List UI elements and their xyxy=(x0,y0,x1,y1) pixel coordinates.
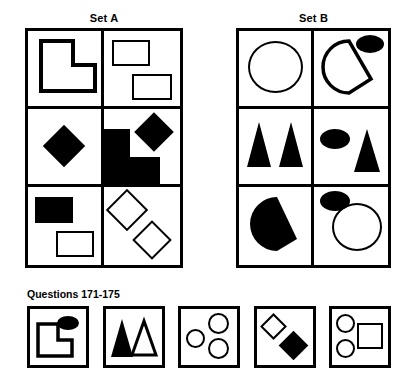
cell-a3 xyxy=(28,109,104,187)
ellipse-filled-icon xyxy=(356,35,384,53)
rectangle-filled-icon xyxy=(35,197,73,223)
circle-outline-icon xyxy=(208,338,229,359)
answer-option-4[interactable] xyxy=(254,306,316,368)
triangle-filled-icon xyxy=(354,129,380,172)
answer-option-2[interactable] xyxy=(103,306,165,368)
pacman-filled-icon xyxy=(247,195,301,253)
triangle-filled-icon xyxy=(279,122,303,167)
set-b-panel xyxy=(236,28,391,268)
rectangle-outline-icon xyxy=(132,74,172,100)
cell-b2 xyxy=(314,31,389,109)
answer-option-1[interactable] xyxy=(27,306,89,368)
square-outline-icon xyxy=(357,323,383,349)
circle-outline-icon xyxy=(208,313,229,334)
triangle-filled-icon xyxy=(247,122,271,167)
diamond-filled-icon xyxy=(279,331,309,361)
questions-label: Questions 171-175 xyxy=(27,288,120,300)
answer-option-3[interactable] xyxy=(178,306,240,368)
set-a-title: Set A xyxy=(25,12,183,24)
cell-a6 xyxy=(104,187,180,265)
set-a-panel xyxy=(25,28,183,268)
cell-a5 xyxy=(28,187,104,265)
cell-b5 xyxy=(239,187,314,265)
cell-a1 xyxy=(28,31,104,109)
cell-b4 xyxy=(314,109,389,187)
rectangle-outline-icon xyxy=(56,231,94,257)
cell-b1 xyxy=(239,31,314,109)
rectangle-outline-icon xyxy=(112,40,150,66)
diamond-outline-icon xyxy=(106,189,148,231)
ellipse-filled-icon xyxy=(320,129,350,149)
circle-outline-icon xyxy=(186,329,205,348)
circle-outline-icon xyxy=(336,314,355,333)
set-b-title: Set B xyxy=(236,12,391,24)
circle-outline-icon xyxy=(248,41,303,93)
diamond-outline-icon xyxy=(132,220,172,260)
cell-b3 xyxy=(239,109,314,187)
diamond-filled-icon xyxy=(43,125,85,167)
cell-a2 xyxy=(104,31,180,109)
triangle-outline-icon xyxy=(130,319,158,357)
ellipse-filled-icon xyxy=(320,191,350,211)
ellipse-filled-icon xyxy=(57,316,79,330)
answer-option-5[interactable] xyxy=(329,306,391,368)
diamond-outline-icon xyxy=(260,313,287,340)
worksheet-page: Set A xyxy=(0,0,410,386)
cell-a4 xyxy=(104,109,180,187)
circle-outline-icon xyxy=(336,339,355,358)
l-shape-outline-icon xyxy=(39,39,97,93)
cell-b6 xyxy=(314,187,389,265)
